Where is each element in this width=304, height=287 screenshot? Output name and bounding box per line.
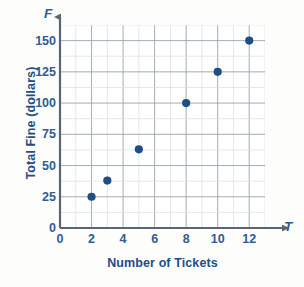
x-axis-tick-label: 12: [234, 233, 264, 246]
x-axis-symbol: T: [284, 219, 292, 234]
x-axis-tick-label: 4: [108, 233, 138, 246]
x-axis-tick-label: 8: [171, 233, 201, 246]
x-axis-tick-label: 2: [77, 233, 107, 246]
x-axis-tick-labels: 024681012: [60, 233, 265, 249]
y-axis-symbol: F: [44, 6, 52, 21]
data-point: [103, 176, 111, 184]
x-axis-title: Number of Tickets: [60, 256, 265, 270]
data-point: [182, 99, 190, 107]
data-points-layer: [60, 25, 265, 228]
x-axis-tick-label: 10: [203, 233, 233, 246]
data-point: [87, 193, 95, 201]
plot-area: [60, 25, 265, 228]
data-point: [245, 37, 253, 45]
y-axis-title: Total Fine (dollars): [24, 33, 38, 213]
data-point: [135, 145, 143, 153]
x-axis-tick-label: 6: [140, 233, 170, 246]
x-axis-tick-label: 0: [45, 233, 75, 246]
data-point: [214, 68, 222, 76]
scatter-plot-chart: 0255075100125150 024681012 F T Total Fin…: [0, 0, 304, 287]
